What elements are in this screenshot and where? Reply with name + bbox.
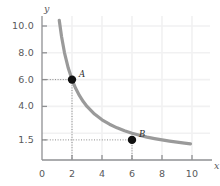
x-tick-label: 8 (148, 168, 176, 179)
y-tick-label: 8.0 (0, 47, 34, 58)
x-axis-label: x (214, 160, 219, 171)
chart-figure: AB10.08.06.04.01.50246810 x y (0, 0, 220, 186)
y-tick-label: 1.5 (0, 134, 34, 145)
x-tick-label: 10 (178, 168, 206, 179)
x-tick-label: 2 (58, 168, 86, 179)
y-axis-label: y (44, 3, 49, 14)
point-label-A: A (79, 69, 85, 79)
y-tick-label: 6.0 (0, 74, 34, 85)
y-tick-label: 4.0 (0, 100, 34, 111)
curve-path (59, 20, 190, 144)
data-curve (59, 20, 190, 144)
data-point-B[interactable] (128, 136, 136, 144)
gridlines (42, 16, 210, 160)
x-tick-label: 0 (28, 168, 56, 179)
y-tick-label: 10.0 (0, 20, 34, 31)
x-tick-label: 6 (118, 168, 146, 179)
x-tick-label: 4 (88, 168, 116, 179)
point-label-B: B (139, 129, 145, 139)
guide-lines (42, 80, 132, 160)
axes (42, 16, 212, 160)
data-point-A[interactable] (68, 75, 76, 83)
